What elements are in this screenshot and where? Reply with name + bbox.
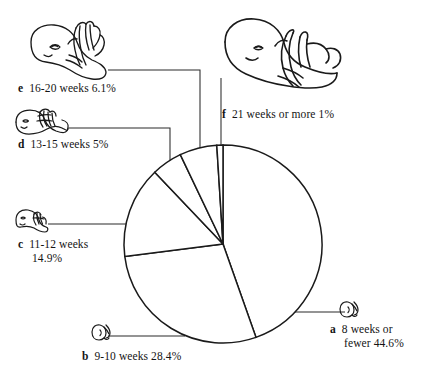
pie-slices bbox=[124, 145, 322, 343]
fetus-icon-e bbox=[31, 22, 106, 80]
embryo-icon-b bbox=[92, 325, 110, 340]
label-e: e 16-20 weeks 6.1% bbox=[18, 82, 116, 96]
label-b-text: 9-10 weeks 28.4% bbox=[94, 350, 181, 362]
fetus-icon-f bbox=[225, 19, 341, 88]
label-c: c 11-12 weeks14.9% bbox=[18, 238, 88, 265]
label-e-text: 16-20 weeks 6.1% bbox=[29, 82, 116, 94]
label-d: d 13-15 weeks 5% bbox=[18, 138, 109, 152]
label-c-text-line2: 14.9% bbox=[32, 252, 88, 266]
fetus-icon-d bbox=[16, 109, 68, 134]
label-f: f 21 weeks or more 1% bbox=[222, 108, 334, 122]
label-a: a 8 weeks orfewer 44.6% bbox=[330, 323, 404, 350]
label-c-text: 11-12 weeks bbox=[29, 238, 88, 250]
leader-line-e bbox=[108, 70, 200, 155]
embryo-icon-a bbox=[340, 302, 358, 317]
label-a-text-line2: fewer 44.6% bbox=[344, 337, 404, 351]
label-f-text: 21 weeks or more 1% bbox=[232, 108, 334, 120]
embryo-icon-c bbox=[16, 210, 48, 232]
label-b: b 9-10 weeks 28.4% bbox=[82, 350, 181, 364]
label-a-text: 8 weeks or bbox=[342, 323, 393, 335]
label-d-text: 13-15 weeks 5% bbox=[30, 138, 108, 150]
